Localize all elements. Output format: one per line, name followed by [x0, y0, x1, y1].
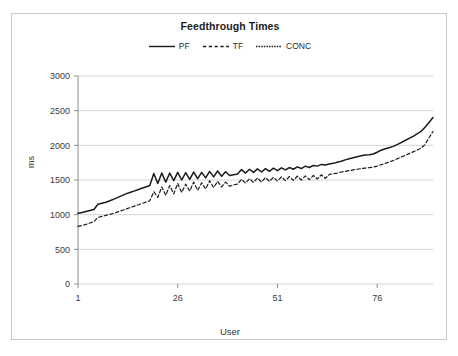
y-tick-label: 500: [55, 245, 70, 255]
y-tick-labels: 050010001500200025003000: [50, 71, 70, 289]
x-tick-label: 51: [272, 293, 282, 303]
data-series: [78, 118, 433, 227]
chart-container: Feedthrough Times PF TF CONC ms User 050…: [11, 13, 447, 340]
y-tick-label: 0: [65, 279, 70, 289]
plot-area: 050010001500200025003000 1265176: [12, 14, 448, 341]
y-tick-label: 3000: [50, 71, 70, 81]
x-tick-label: 1: [75, 293, 80, 303]
x-tick-marks: [78, 284, 377, 288]
y-tick-label: 2000: [50, 141, 70, 151]
plot-svg: 050010001500200025003000 1265176: [12, 14, 448, 341]
y-tick-marks: [74, 76, 78, 284]
x-tick-labels: 1265176: [75, 293, 382, 303]
y-tick-label: 2500: [50, 106, 70, 116]
y-tick-label: 1000: [50, 210, 70, 220]
x-tick-label: 76: [372, 293, 382, 303]
y-tick-label: 1500: [50, 175, 70, 185]
x-tick-label: 26: [173, 293, 183, 303]
